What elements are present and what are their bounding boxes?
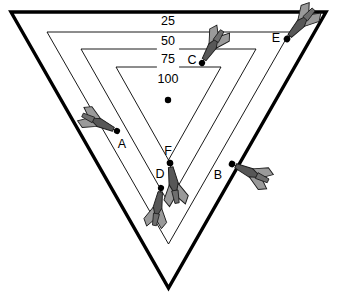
dart-glyph-C bbox=[191, 23, 233, 72]
dart-glyph-B bbox=[224, 152, 275, 193]
dart-B bbox=[224, 152, 275, 193]
dart-label-F: F bbox=[164, 144, 172, 158]
ring-label-100: 100 bbox=[158, 72, 179, 86]
bullseye-dot bbox=[165, 97, 171, 103]
ring-label-25: 25 bbox=[161, 14, 175, 28]
dart-label-A: A bbox=[118, 137, 127, 151]
dart-label-C: C bbox=[187, 53, 196, 67]
dartboard-canvas: 255075100 ABCDEF bbox=[0, 0, 338, 300]
ring-value-labels: 255075100 bbox=[153, 14, 183, 88]
ring-label-50: 50 bbox=[161, 34, 175, 48]
dart-label-E: E bbox=[272, 31, 280, 45]
bullseye-center-dot bbox=[165, 97, 171, 103]
dart-label-D: D bbox=[155, 167, 164, 181]
darts-layer bbox=[76, 0, 324, 229]
dartboard-figure: 255075100 ABCDEF bbox=[0, 0, 338, 300]
ring-label-75: 75 bbox=[161, 52, 175, 66]
dart-C bbox=[191, 23, 233, 72]
dart-label-B: B bbox=[214, 168, 222, 182]
